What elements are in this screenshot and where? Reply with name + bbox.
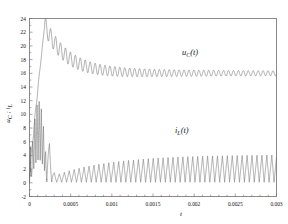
y-tick-label: 2 [23,166,26,172]
x-tick-label: 0 [28,201,31,207]
y-tick-label: 8 [23,125,26,131]
x-tick-label: 0.0025 [228,201,243,207]
uC-curve-label-suffix: (t) [190,47,198,57]
chart-plot: -202468101214161820222400.00050.0010.001… [0,0,288,224]
x-tick-label: 0.001 [106,201,118,207]
y-title-i-sub: L [7,104,13,109]
chart-background [0,0,288,224]
y-tick-label: 0 [23,180,26,186]
y-tick-label: 4 [23,152,26,158]
y-tick-label: 24 [21,16,27,22]
y-tick-label: 16 [21,70,27,76]
y-tick-label: 18 [21,57,27,63]
y-tick-label: 6 [23,139,26,145]
y-tick-label: 20 [21,43,27,49]
y-tick-label: 22 [21,29,27,35]
figure-container: -202468101214161820222400.00050.0010.001… [0,0,288,224]
y-tick-label: 12 [21,98,27,104]
x-tick-label: 0.0005 [63,201,78,207]
y-tick-label: 14 [21,84,27,90]
x-tick-label: 0.002 [188,201,200,207]
uC-curve-label: uC(t) [182,47,198,58]
iL-curve-label: iL(t) [175,125,189,136]
iL-curve-label-suffix: (t) [181,125,189,135]
y-tick-label: -2 [22,194,27,200]
y-tick-label: 10 [21,111,27,117]
x-tick-label: 0.0015 [146,201,161,207]
x-tick-label: 0.003 [270,201,282,207]
